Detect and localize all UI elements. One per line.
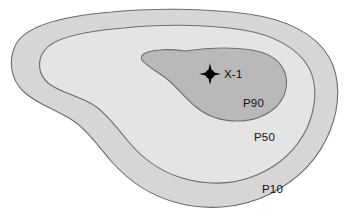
well-marker-dot-icon bbox=[205, 69, 214, 78]
contour-map-svg: P10 P50 P90 X-1 bbox=[0, 0, 348, 216]
well-label-x-1: X-1 bbox=[224, 68, 243, 80]
contour-map-figure: P10 P50 P90 X-1 bbox=[0, 0, 348, 216]
contour-label-p50: P50 bbox=[254, 131, 275, 143]
contour-label-p90: P90 bbox=[243, 97, 264, 109]
contour-label-p10: P10 bbox=[262, 183, 283, 195]
